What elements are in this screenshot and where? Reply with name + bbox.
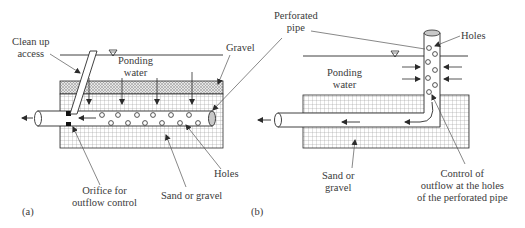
panel-b xyxy=(258,30,469,168)
label-perforated-pipe: Perforated pipe xyxy=(274,10,318,34)
label-orifice: Orifice for outflow control xyxy=(72,185,137,209)
label-sand-or-gravel: Sand or gravel xyxy=(161,190,222,202)
label-line: Orifice for xyxy=(72,185,137,197)
label-line: pipe xyxy=(274,22,318,34)
label-line: Ponding xyxy=(118,55,153,67)
label-sand-or-gravel: Sand or gravel xyxy=(322,170,354,194)
label-control-of-outflow: Control of outflow at the holes of the p… xyxy=(417,168,508,204)
label-ponding-water: Ponding water xyxy=(327,67,362,91)
label-line: access xyxy=(12,48,50,60)
label-line: Ponding xyxy=(327,67,362,79)
leader-clean-up xyxy=(50,54,80,73)
label-ponding-water: Ponding water xyxy=(118,55,153,79)
caption-a: (a) xyxy=(22,206,34,218)
label-line: outflow at the holes xyxy=(417,180,508,192)
label-line: Control of xyxy=(417,168,508,180)
label-holes: Holes xyxy=(461,30,486,42)
label-line: Clean up xyxy=(12,36,50,48)
label-line: outflow control xyxy=(72,197,137,209)
label-line: gravel xyxy=(322,182,354,194)
pipe-closed-end xyxy=(209,111,216,126)
label-holes: Holes xyxy=(214,168,239,180)
caption-b: (b) xyxy=(251,206,263,218)
leader-perforated xyxy=(311,31,425,49)
label-line: Sand or xyxy=(322,170,354,182)
label-gravel: Gravel xyxy=(226,42,255,54)
label-line: water xyxy=(118,67,153,79)
leader-gravel xyxy=(218,55,230,84)
label-line: Perforated xyxy=(274,10,318,22)
pipe-outlet-end xyxy=(35,111,42,126)
orifice-bottom xyxy=(66,122,71,126)
label-clean-up-access: Clean up access xyxy=(12,36,50,60)
label-line: water xyxy=(327,79,362,91)
pipe-outlet-end xyxy=(275,113,282,127)
pipe-top-cap xyxy=(424,30,440,36)
underdrain-pipe xyxy=(38,111,212,126)
label-line: of the perforated pipe xyxy=(417,192,508,204)
